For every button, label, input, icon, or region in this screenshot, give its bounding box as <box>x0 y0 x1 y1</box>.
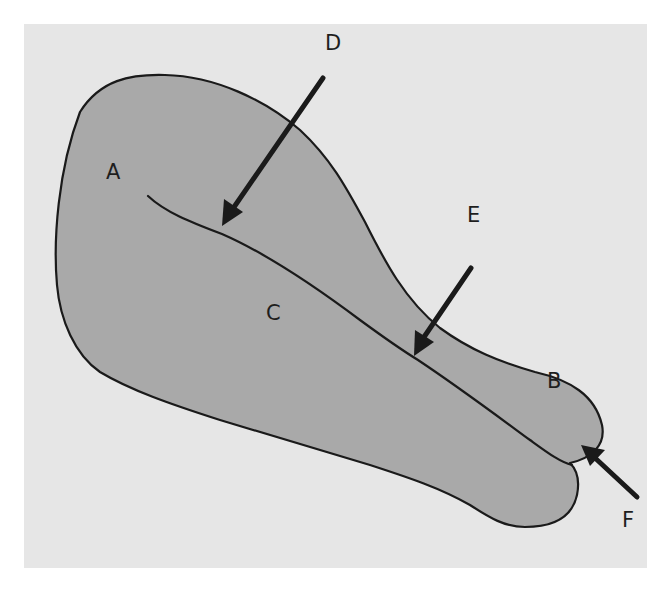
label-f: F <box>622 510 634 531</box>
label-e: E <box>467 205 480 226</box>
label-c: C <box>266 303 281 324</box>
diagram-figure <box>0 0 665 589</box>
label-d: D <box>325 33 341 54</box>
label-b: B <box>547 371 561 392</box>
label-a: A <box>106 162 120 183</box>
arrow-f <box>581 445 637 497</box>
structure-outline <box>56 75 603 527</box>
